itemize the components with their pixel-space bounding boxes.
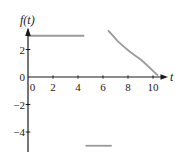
y-axis-arrow-icon: [25, 28, 31, 37]
y-tick-label-0: 0: [20, 71, 26, 83]
y-axis-label: f(t): [20, 13, 35, 27]
x-tick-label-8: 8: [125, 81, 131, 93]
x-tick-label-6: 6: [100, 81, 106, 93]
function-plot-figure: 024681020−2−4 f(t) t: [0, 0, 180, 159]
decay-curve: [108, 30, 158, 75]
x-axis-arrow-icon: [161, 74, 169, 80]
x-tick-label-0: 0: [30, 81, 36, 93]
x-tick-label-4: 4: [75, 81, 81, 93]
y-tick-label-−2: −2: [13, 99, 25, 111]
x-tick-label-10: 10: [148, 81, 160, 93]
y-tick-label-−4: −4: [13, 126, 25, 138]
x-axis-label: t: [170, 70, 174, 84]
plot-svg: 024681020−2−4 f(t) t: [0, 0, 180, 159]
x-tick-label-2: 2: [50, 81, 56, 93]
plot-ticks-group: [26, 50, 153, 133]
y-tick-label-2: 2: [20, 44, 26, 56]
plot-series-group: [28, 30, 158, 145]
